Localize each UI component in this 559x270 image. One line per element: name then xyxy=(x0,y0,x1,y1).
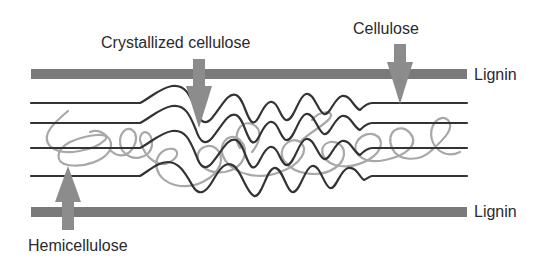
crystallized-cellulose-label: Crystallized cellulose xyxy=(101,35,250,51)
lignin-top-label: Lignin xyxy=(474,67,517,83)
cellulose-arrow xyxy=(387,44,413,104)
cellulose-strands xyxy=(31,86,467,196)
cellulose-label: Cellulose xyxy=(353,21,419,37)
lignocellulose-diagram xyxy=(0,0,559,270)
cellulose-strand-4 xyxy=(31,162,467,196)
lignin-bar-bottom xyxy=(31,207,467,217)
lignin-bottom-label: Lignin xyxy=(474,204,517,220)
hemicellulose-label: Hemicellulose xyxy=(28,238,128,254)
